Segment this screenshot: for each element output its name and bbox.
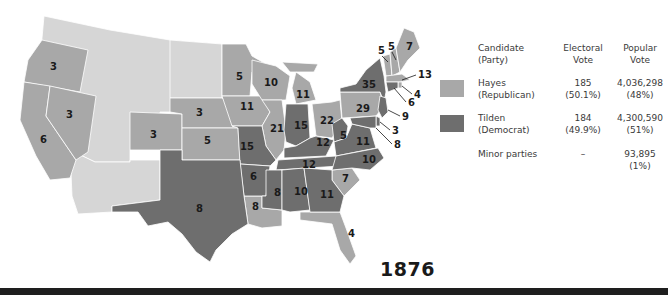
state-kansas — [182, 128, 240, 160]
ev-label-florida: 4 — [348, 228, 355, 239]
ev-label-new-jersey: 9 — [402, 111, 409, 122]
ev-label-maryland: 8 — [394, 139, 401, 150]
ev-label-vermont: 5 — [378, 45, 385, 56]
ev-label-pennsylvania: 29 — [356, 103, 370, 114]
state-delaware — [376, 116, 380, 126]
leader-line-delaware — [380, 122, 390, 130]
ev-label-arkansas: 6 — [250, 171, 257, 182]
candidate-name: Minor parties — [478, 148, 537, 160]
ev-label-california: 6 — [40, 134, 47, 145]
territory-dakota — [170, 40, 222, 98]
popular-vote: 4,036,298 — [612, 77, 668, 89]
ev-label-colorado: 3 — [150, 129, 157, 140]
swatch-republican — [440, 80, 464, 97]
ev-label-alabama: 10 — [294, 186, 308, 197]
electoral-map: 3 3 6 3 3 5 5 11 10 11 21 22 29 5 5 7 13… — [0, 0, 460, 270]
ev-label-south-carolina: 7 — [342, 173, 349, 184]
ev-label-mississippi: 8 — [274, 187, 281, 198]
ev-label-nevada: 3 — [66, 109, 73, 120]
popular-pct: (1%) — [612, 160, 668, 172]
header-candidate: Candidate (Party) — [478, 42, 524, 66]
ev-label-new-hampshire: 5 — [388, 41, 395, 52]
electoral-vote: – — [558, 148, 608, 160]
ev-label-iowa: 11 — [240, 101, 254, 112]
ev-label-tennessee: 12 — [302, 159, 316, 170]
electoral-pct: (49.9%) — [558, 124, 608, 136]
electoral-pct: (50.1%) — [558, 89, 608, 101]
ev-label-nebraska: 3 — [196, 107, 203, 118]
popular-vote: 4,300,590 — [612, 112, 668, 124]
state-rhode-island — [398, 82, 402, 88]
leader-line-rhode-island — [402, 86, 412, 94]
ev-label-missouri: 15 — [240, 141, 254, 152]
electoral-vote: 184 — [558, 112, 608, 124]
popular-vote: 93,895 — [612, 148, 668, 160]
candidate-party: (Republican) — [478, 89, 535, 101]
ev-label-minnesota: 5 — [236, 71, 243, 82]
ev-label-delaware: 3 — [392, 125, 399, 136]
election-year-title: 1876 — [380, 258, 435, 280]
leader-line-new-jersey — [388, 110, 400, 116]
candidate-name: Tilden — [478, 112, 529, 124]
ev-label-wisconsin: 10 — [264, 77, 278, 88]
leader-line-connecticut — [394, 88, 406, 102]
ev-label-oregon: 3 — [50, 61, 57, 72]
electoral-vote: 185 — [558, 77, 608, 89]
ev-label-new-york: 35 — [362, 79, 376, 90]
ev-label-connecticut: 6 — [408, 97, 415, 108]
ev-label-west-virginia: 5 — [340, 130, 347, 141]
ev-label-north-carolina: 10 — [362, 154, 376, 165]
swatch-democrat — [440, 115, 464, 132]
ev-label-ohio: 22 — [320, 115, 334, 126]
header-popular-vote: Popular Vote — [612, 42, 668, 66]
ev-label-kansas: 5 — [204, 135, 211, 146]
ev-label-rhode-island: 4 — [414, 89, 421, 100]
leader-line-maryland — [376, 128, 392, 144]
ev-label-kentucky: 12 — [316, 137, 330, 148]
ev-label-massachusetts: 13 — [418, 69, 432, 80]
ev-label-maine: 7 — [406, 41, 413, 52]
popular-pct: (48%) — [612, 89, 668, 101]
ev-label-michigan: 11 — [296, 89, 310, 100]
ev-label-texas: 8 — [196, 203, 203, 214]
ev-label-illinois: 21 — [270, 123, 284, 134]
ev-label-georgia: 11 — [320, 189, 334, 200]
candidate-name: Hayes — [478, 77, 535, 89]
ev-label-virginia: 11 — [356, 136, 370, 147]
state-new-jersey — [378, 96, 388, 118]
state-massachusetts — [386, 74, 410, 82]
candidate-party: (Democrat) — [478, 124, 529, 136]
popular-pct: (51%) — [612, 124, 668, 136]
bottom-divider-bar — [0, 288, 668, 295]
ev-label-louisiana: 8 — [252, 201, 259, 212]
header-electoral-vote: Electoral Vote — [558, 42, 608, 66]
ev-label-indiana: 15 — [294, 120, 308, 131]
